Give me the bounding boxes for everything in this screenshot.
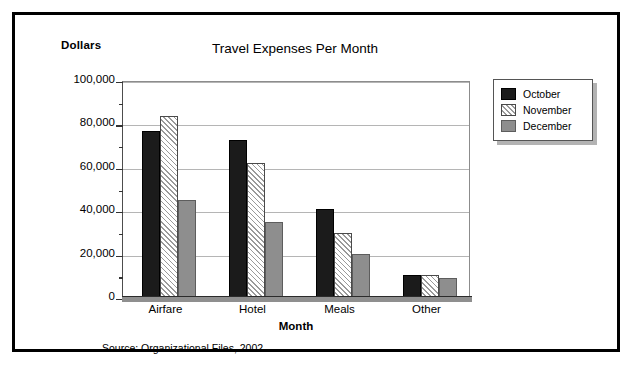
bar-airfare-december bbox=[178, 200, 196, 298]
x-axis-label: Month bbox=[122, 320, 470, 332]
chart-title: Travel Expenses Per Month bbox=[165, 41, 425, 56]
legend-item: October bbox=[501, 86, 585, 102]
y-tick-major bbox=[116, 169, 123, 170]
y-tick-label: 20,000 bbox=[53, 247, 115, 259]
bar-other-november bbox=[421, 275, 439, 298]
chart-figure: Dollars Travel Expenses Per Month Month … bbox=[12, 12, 620, 352]
x-tick-label: Hotel bbox=[210, 303, 296, 315]
bar-other-october bbox=[403, 275, 421, 298]
chart-legend: October November December bbox=[493, 79, 593, 141]
bar-airfare-october bbox=[142, 131, 160, 298]
bar-hotel-december bbox=[265, 222, 283, 298]
y-tick-major bbox=[116, 212, 123, 213]
source-note: Source: Organizational Files, 2002 bbox=[102, 342, 263, 354]
y-tick-label: 60,000 bbox=[53, 160, 115, 172]
y-tick-label: 100,000 bbox=[53, 73, 115, 85]
y-tick-label: 0 bbox=[53, 290, 115, 302]
legend-label-december: December bbox=[523, 120, 571, 132]
legend-item: November bbox=[501, 102, 585, 118]
y-tick-label: 40,000 bbox=[53, 203, 115, 215]
bar-meals-november bbox=[334, 233, 352, 298]
x-tick-label: Airfare bbox=[123, 303, 209, 315]
y-axis-label: Dollars bbox=[61, 39, 101, 51]
bar-group bbox=[297, 82, 384, 298]
x-axis-baseline bbox=[122, 296, 472, 302]
legend-swatch-december bbox=[501, 120, 516, 132]
bar-meals-october bbox=[316, 209, 334, 298]
legend-label-october: October bbox=[523, 88, 560, 100]
x-tick-label: Meals bbox=[297, 303, 383, 315]
legend-swatch-october bbox=[501, 88, 516, 100]
legend-label-november: November bbox=[523, 104, 571, 116]
legend-item: December bbox=[501, 118, 585, 134]
bar-airfare-november bbox=[160, 116, 178, 298]
legend-swatch-november bbox=[501, 104, 516, 116]
y-tick-major bbox=[116, 256, 123, 257]
y-tick-label: 80,000 bbox=[53, 116, 115, 128]
bar-group bbox=[384, 82, 471, 298]
y-tick-major bbox=[116, 125, 123, 126]
plot-area bbox=[122, 81, 470, 298]
bar-group bbox=[210, 82, 297, 298]
bar-group bbox=[123, 82, 210, 298]
x-tick-label: Other bbox=[384, 303, 470, 315]
bar-hotel-october bbox=[229, 140, 247, 298]
y-tick-major bbox=[116, 82, 123, 83]
bar-meals-december bbox=[352, 254, 370, 298]
bar-hotel-november bbox=[247, 163, 265, 298]
